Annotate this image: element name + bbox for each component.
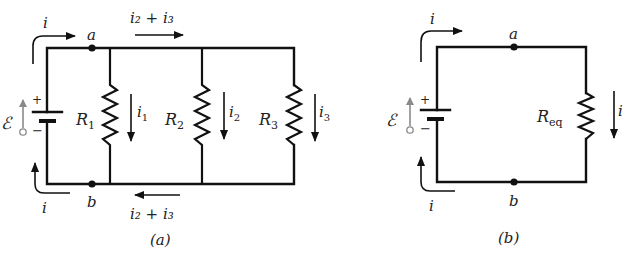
branch-current-label-top: i₂ + i₃ xyxy=(130,9,174,27)
node-a-label-b: a xyxy=(509,25,518,43)
emf-label-b: ℰ xyxy=(386,110,398,130)
minus-sign-b: − xyxy=(420,121,431,136)
node-a-label: a xyxy=(87,26,96,44)
req-current-label: i xyxy=(618,102,623,120)
node-b-label-b: b xyxy=(509,192,519,210)
branch-current-label-bottom: i₂ + i₃ xyxy=(130,205,174,223)
wire-left-top xyxy=(47,48,294,112)
current-label-bottom-a: i xyxy=(42,199,47,217)
i2-label: i2 xyxy=(229,103,240,123)
i3-label: i3 xyxy=(319,103,330,123)
node-a xyxy=(88,44,95,51)
current-label-top-b: i xyxy=(430,10,435,28)
wire-b-bottom xyxy=(437,120,586,182)
battery-a xyxy=(33,112,62,121)
caption-a: (a) xyxy=(150,231,171,249)
r1-label: R1 xyxy=(75,110,95,132)
caption-b: (b) xyxy=(498,229,519,247)
resistor-req xyxy=(579,93,593,139)
current-label-bottom-b: i xyxy=(429,197,434,215)
emf-label-a: ℰ xyxy=(1,113,13,133)
node-b-label: b xyxy=(87,193,97,211)
figure-b-equivalent-circuit: + − ℰ a b i i Req i (b) xyxy=(386,10,623,247)
emf-terminal-a xyxy=(20,129,26,135)
minus-sign-a: − xyxy=(32,123,43,138)
battery-b xyxy=(421,110,450,119)
resistor-r2 xyxy=(195,48,209,184)
node-b-b xyxy=(510,178,517,185)
resistor-r3 xyxy=(287,85,301,145)
emf-terminal-b xyxy=(407,127,413,133)
i1-label: i1 xyxy=(137,103,148,123)
node-b xyxy=(88,180,95,187)
circuit-diagrams: + − ℰ a b i i i₂ + i₃ i₂ + i₃ R1 R2 R3 i… xyxy=(0,0,627,264)
req-label: Req xyxy=(536,107,563,129)
plus-sign-a: + xyxy=(32,93,42,107)
resistor-r1 xyxy=(103,48,117,184)
r3-label: R3 xyxy=(258,110,278,132)
current-label-top-a: i xyxy=(43,14,48,32)
r2-label: R2 xyxy=(164,110,184,132)
figure-a-parallel-circuit: + − ℰ a b i i i₂ + i₃ i₂ + i₃ R1 R2 R3 i… xyxy=(1,9,330,249)
plus-sign-b: + xyxy=(420,93,430,107)
current-arrow-top-icon-a xyxy=(33,36,75,64)
current-arrow-bottom-icon-a xyxy=(35,163,70,193)
wire-b-top xyxy=(437,47,586,110)
wire-left-bottom xyxy=(47,122,294,184)
node-a-b xyxy=(510,43,517,50)
